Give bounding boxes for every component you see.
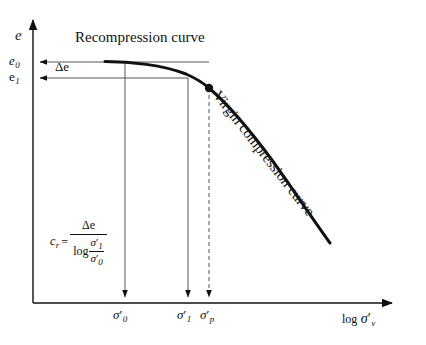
sigma-0-prime: ′ xyxy=(119,307,122,322)
delta-e-label: Δe xyxy=(55,60,69,73)
plot-svg xyxy=(0,0,426,345)
consolidation-curve-figure: e e0 e1 Δe Recompression curve Virgin co… xyxy=(0,0,426,345)
sigma-p-prime: ′ xyxy=(206,307,209,322)
formula-log-text: log xyxy=(73,244,88,259)
y-axis-variable-label: e xyxy=(15,28,22,43)
x-axis-log-text: log xyxy=(342,312,357,326)
x-tick-label-sigma-p: σ′p xyxy=(200,308,214,324)
e1-base: e xyxy=(9,69,15,84)
e0-subscript: 0 xyxy=(15,60,20,70)
formula-inner-fraction: σ′1 σ′0 xyxy=(89,236,103,266)
recompression-curve-label: Recompression curve xyxy=(75,30,205,45)
x-axis-title: log σ′v xyxy=(342,312,375,328)
formula-equals: = xyxy=(61,235,68,250)
sigma-1-subscript: 1 xyxy=(187,314,192,324)
sigma-1-prime: ′ xyxy=(183,307,186,322)
formula-inner-numerator: σ′1 xyxy=(89,236,103,251)
x-axis-subscript: v xyxy=(371,318,375,328)
sigma-0-subscript: 0 xyxy=(123,314,128,324)
formula-fraction: Δe log σ′1 σ′0 xyxy=(70,218,107,266)
formula-c-subscript: r xyxy=(56,240,60,250)
formula-c-symbol: c xyxy=(50,234,55,248)
compression-curve xyxy=(105,62,330,244)
preconsolidation-point-marker xyxy=(205,84,213,92)
formula-denominator: log σ′1 σ′0 xyxy=(70,235,107,266)
formula-inner-den-sub: 0 xyxy=(98,256,103,266)
recompression-index-formula: cr = Δe log σ′1 σ′0 xyxy=(50,218,107,266)
formula-numerator: Δe xyxy=(79,218,98,234)
sigma-p-subscript: p xyxy=(210,314,215,324)
x-tick-label-sigma-1: σ′1 xyxy=(177,308,191,324)
e0-base: e xyxy=(9,53,15,68)
formula-lhs: cr xyxy=(50,234,59,250)
x-axis-sigma-symbol: σ xyxy=(361,311,368,326)
y-tick-label-e1: e1 xyxy=(9,70,20,86)
formula-inner-denominator: σ′0 xyxy=(89,252,103,267)
formula-inner-num-sub: 1 xyxy=(98,241,103,251)
e1-subscript: 1 xyxy=(15,76,20,86)
y-tick-label-e0: e0 xyxy=(9,54,20,70)
x-tick-label-sigma-0: σ′0 xyxy=(113,308,127,324)
